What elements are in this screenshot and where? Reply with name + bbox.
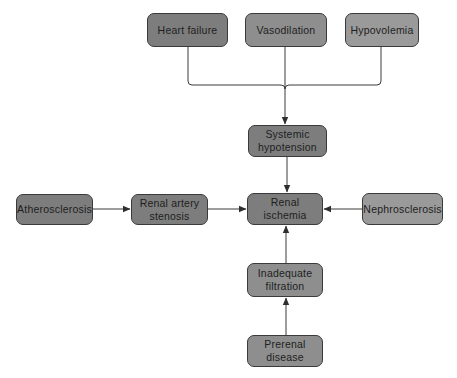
node-label-line1: Renal [271, 196, 299, 209]
node-label-line2: disease [266, 351, 304, 364]
node-nephrosclerosis: Nephrosclerosis [362, 193, 443, 225]
node-label: Atherosclerosis [17, 203, 92, 216]
node-renal-artery-stenosis: Renal artery stenosis [131, 194, 208, 225]
node-label: Nephrosclerosis [363, 203, 441, 216]
node-systemic-hypotension: Systemic hypotension [248, 125, 327, 157]
node-label-line1: Systemic [265, 128, 309, 141]
node-label-line1: Prerenal [264, 338, 305, 351]
node-label: Vasodilation [257, 24, 316, 37]
edge-hypovolemia [289, 47, 381, 85]
node-label-line1: Renal artery [140, 197, 200, 210]
node-renal-ischemia: Renal ischemia [247, 193, 323, 225]
node-inadequate-filtration: Inadequate filtration [247, 263, 323, 297]
node-atherosclerosis: Atherosclerosis [16, 194, 93, 225]
node-label-line1: Inadequate [258, 267, 313, 280]
connector-lines [0, 0, 457, 378]
node-prerenal-disease: Prerenal disease [247, 335, 323, 367]
node-label-line2: filtration [266, 280, 305, 293]
edge-heart-failure [188, 47, 281, 85]
node-label-line2: stenosis [149, 210, 189, 223]
node-vasodilation: Vasodilation [245, 13, 327, 47]
node-label-line2: hypotension [258, 141, 317, 154]
flowchart-canvas: Heart failure Vasodilation Hypovolemia S… [0, 0, 457, 378]
node-label: Heart failure [158, 24, 218, 37]
node-heart-failure: Heart failure [147, 13, 228, 47]
node-label: Hypovolemia [351, 24, 414, 37]
node-hypovolemia: Hypovolemia [345, 13, 419, 47]
node-label-line2: ischemia [263, 209, 306, 222]
